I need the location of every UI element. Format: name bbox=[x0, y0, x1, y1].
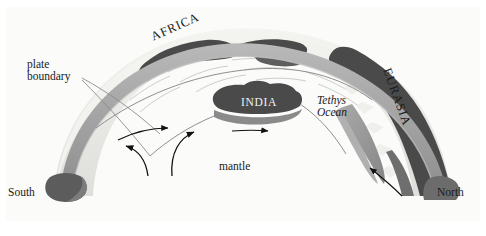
plate-tectonics-diagram: plate boundary AFRICA EURASIA INDIA Teth… bbox=[0, 0, 486, 236]
label-south: South bbox=[8, 186, 35, 198]
label-north: North bbox=[437, 186, 464, 198]
label-tethys-ocean: Tethys Ocean bbox=[317, 94, 347, 119]
label-mantle: mantle bbox=[219, 160, 250, 172]
label-india: INDIA bbox=[241, 96, 277, 108]
label-plate-boundary: plate boundary bbox=[27, 58, 70, 83]
diagram-canvas bbox=[0, 0, 486, 236]
